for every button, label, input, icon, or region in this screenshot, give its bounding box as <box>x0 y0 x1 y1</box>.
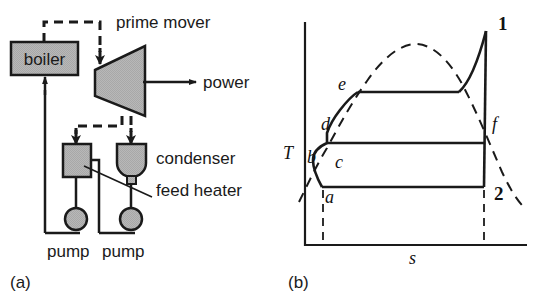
condenser-label: condenser <box>156 149 236 168</box>
condenser-vessel[interactable] <box>117 144 146 177</box>
expansion-line-1-to-2 <box>484 31 486 187</box>
power-output: power <box>143 73 250 92</box>
condenser-outlet-stub <box>127 176 136 184</box>
boiler-component[interactable]: boiler <box>11 42 78 75</box>
prime-mover-label: prime mover <box>116 13 211 32</box>
pump-left[interactable] <box>65 208 87 230</box>
panel-a-schematic: boiler prime mover power <box>10 13 250 292</box>
state-label-2: 2 <box>494 183 504 204</box>
axis-label-entropy: s <box>409 248 416 268</box>
steam-line-to-feed-heater <box>76 116 122 144</box>
boiler-label: boiler <box>24 50 66 69</box>
prime-mover-component[interactable] <box>95 46 145 116</box>
pump-right-label: pump <box>102 242 145 261</box>
axis-label-temperature: T <box>283 143 295 163</box>
state-label-b: b <box>307 147 316 167</box>
panel-b-caption: (b) <box>288 273 309 292</box>
superheat-curve-to-1 <box>459 31 486 92</box>
state-label-a: a <box>325 187 334 207</box>
condenser-component[interactable] <box>117 144 146 184</box>
feed-heater-component[interactable] <box>63 144 91 177</box>
feed-heater-label: feed heater <box>156 181 242 200</box>
pump-left-label: pump <box>47 242 90 261</box>
feed-heater-leader: feed heater <box>84 166 242 200</box>
state-label-e: e <box>338 74 346 94</box>
panel-b-ts-diagram: T s 1 2 a b c d e <box>283 13 527 292</box>
panel-a-caption: (a) <box>10 273 31 292</box>
state-label-c: c <box>335 152 343 172</box>
prime-mover-triangle[interactable] <box>95 46 145 116</box>
state-label-1: 1 <box>498 13 508 34</box>
state-label-f: f <box>492 114 500 134</box>
state-label-d: d <box>321 114 331 134</box>
power-label: power <box>203 73 250 92</box>
feed-heater-box[interactable] <box>63 144 91 177</box>
figure-svg: boiler prime mover power <box>0 0 539 307</box>
pump-right[interactable] <box>120 208 142 230</box>
figure-container: boiler prime mover power <box>0 0 539 307</box>
